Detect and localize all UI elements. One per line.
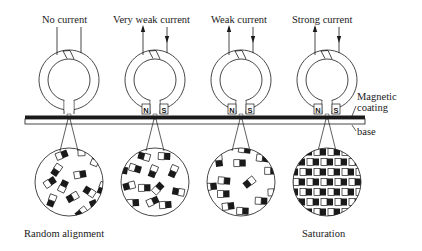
- magnetic-domain: [307, 199, 319, 206]
- magnetic-domain: [151, 182, 164, 196]
- current-arrow-down-icon: [165, 36, 169, 43]
- magnetic-domain: [356, 149, 368, 156]
- magnetic-domain: [307, 179, 319, 186]
- magnetic-domain: [146, 196, 160, 207]
- magnetic-domain: [204, 182, 217, 190]
- magnetic-coating-label-line1: Magnetic: [357, 92, 397, 103]
- coil-winding: [156, 51, 160, 60]
- south-pole-label: S: [161, 106, 166, 115]
- coil-winding: [70, 51, 74, 60]
- magnetic-domain: [342, 169, 354, 176]
- magnetic-domain: [335, 199, 347, 206]
- coating-leader-line: [352, 106, 356, 116]
- head-inner-ring: [134, 59, 176, 101]
- random-alignment-label: Random alignment: [24, 229, 104, 240]
- magnetic-domain: [90, 153, 101, 167]
- magnetic-domain: [349, 179, 361, 186]
- magnetic-domain: [356, 169, 368, 176]
- base-label: base: [357, 127, 376, 138]
- magnetic-domain: [75, 206, 89, 219]
- magnetic-domain: [356, 209, 368, 216]
- magnetic-domain: [74, 170, 87, 179]
- magnetic-domain: [122, 181, 135, 191]
- coil-winding: [328, 51, 332, 60]
- tape-base: [25, 119, 365, 124]
- coil-winding: [235, 51, 239, 59]
- magnetic-domain: [307, 159, 319, 166]
- magnetic-domain: [148, 165, 159, 179]
- magnetic-domain: [314, 189, 326, 196]
- saturation-label: Saturation: [302, 229, 345, 240]
- magnetic-domain: [321, 159, 333, 166]
- magnetic-domain: [115, 166, 128, 175]
- magnetic-domain: [50, 163, 62, 177]
- magnetic-domain: [342, 189, 354, 196]
- magnetic-domain: [127, 199, 139, 207]
- magnetic-domain: [293, 159, 305, 166]
- magnetic-coating-layer: [25, 116, 365, 120]
- magnetic-domain: [66, 191, 80, 203]
- head-label-very-weak-current: Very weak current: [113, 15, 190, 26]
- north-pole-label: N: [315, 106, 320, 115]
- current-arrow-up-icon: [141, 25, 145, 32]
- magnified-domains: [279, 149, 368, 216]
- magnetic-domain: [138, 184, 150, 191]
- south-pole-label: S: [247, 106, 252, 115]
- head-label-strong-current: Strong current: [292, 15, 352, 26]
- magnetic-domain: [222, 202, 235, 211]
- magnified-domains: [115, 152, 185, 209]
- current-arrow-down-icon: [337, 36, 341, 43]
- current-arrow-up-icon: [227, 25, 231, 32]
- magnetic-domain: [286, 169, 298, 176]
- magnetic-domain: [293, 199, 305, 206]
- head-inner-ring: [306, 59, 348, 101]
- head-inner-ring: [220, 59, 262, 101]
- magnetic-domain: [89, 199, 100, 213]
- magnified-view-circle: [207, 148, 275, 216]
- magnetic-domain: [300, 189, 312, 196]
- base-leader-line: [352, 125, 356, 131]
- magnetic-domain: [349, 199, 361, 206]
- magnetic-domain: [159, 201, 171, 209]
- magnetic-domain: [137, 152, 150, 162]
- magnetic-domain: [286, 189, 298, 196]
- magnetic-domain: [279, 179, 291, 186]
- magnified-domains: [43, 144, 108, 219]
- magnetic-domain: [300, 169, 312, 176]
- magnetic-domain: [172, 187, 185, 196]
- head-label-no-current: No current: [42, 15, 87, 26]
- coil-winding: [242, 51, 246, 60]
- magnetic-domain: [55, 150, 69, 161]
- head-label-weak-current: Weak current: [211, 15, 267, 26]
- coil-winding: [321, 51, 325, 59]
- current-arrow-up-icon: [313, 25, 317, 32]
- magnetic-domain: [293, 179, 305, 186]
- magnetic-domain: [314, 169, 326, 176]
- magnetic-domain: [234, 159, 246, 166]
- coil-winding: [149, 51, 153, 59]
- coil-winding: [63, 51, 67, 59]
- magnetic-domain: [265, 167, 277, 174]
- magnetic-domain: [279, 159, 291, 166]
- magnetic-domain: [46, 194, 57, 208]
- magnetic-domain: [321, 179, 333, 186]
- magnetic-domain: [349, 159, 361, 166]
- north-pole-label: N: [143, 106, 148, 115]
- magnetic-domain: [335, 159, 347, 166]
- magnetic-domain: [321, 199, 333, 206]
- magnetic-domain: [242, 176, 256, 189]
- magnetic-domain: [237, 207, 249, 214]
- magnetic-domain: [128, 163, 142, 173]
- current-arrow-down-icon: [251, 36, 255, 43]
- magnetic-domain: [286, 149, 298, 156]
- magnetic-domain: [356, 189, 368, 196]
- magnetic-domain: [328, 189, 340, 196]
- magnetic-domain: [335, 179, 347, 186]
- magnetic-domain: [168, 164, 179, 178]
- magnetic-domain: [158, 152, 170, 160]
- magnetic-domain: [286, 209, 298, 216]
- magnetic-domain: [82, 186, 96, 198]
- magnetic-domain: [328, 169, 340, 176]
- magnetic-domain: [217, 190, 229, 197]
- magnetic-domain: [43, 176, 57, 188]
